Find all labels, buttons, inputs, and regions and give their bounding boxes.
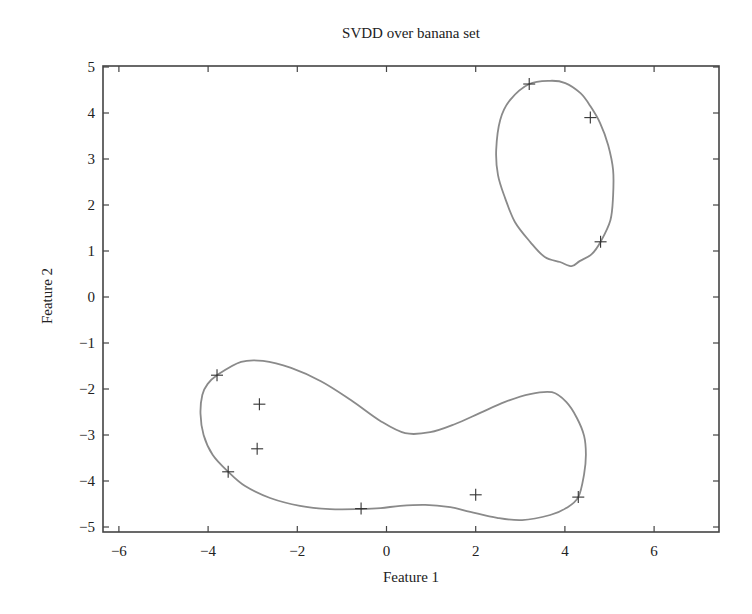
x-tick-label: −4 (200, 543, 216, 559)
plus-marker-icon (251, 443, 263, 455)
x-tick-label: 6 (650, 543, 658, 559)
y-axis: −5−4−3−2−1012345 (79, 59, 719, 535)
plot-area (103, 66, 719, 532)
x-tick-label: −6 (111, 543, 127, 559)
y-tick-label: 5 (88, 59, 96, 75)
svdd-boundaries (200, 81, 613, 520)
y-tick-label: −5 (79, 519, 95, 535)
svdd-chart: SVDD over banana set −6−4−20246 −5−4−3−2… (0, 0, 752, 614)
y-tick-label: −4 (79, 473, 95, 489)
x-axis-label: Feature 1 (383, 569, 439, 585)
data-points (211, 78, 607, 515)
plus-marker-icon (355, 503, 367, 515)
y-tick-label: −3 (79, 427, 95, 443)
y-tick-label: −1 (79, 335, 95, 351)
svdd-boundary-curve (496, 81, 613, 266)
x-tick-label: −2 (289, 543, 305, 559)
y-axis-label: Feature 2 (39, 268, 55, 324)
x-tick-label: 4 (561, 543, 569, 559)
plus-marker-icon (595, 236, 607, 248)
y-tick-label: 2 (88, 197, 96, 213)
plus-marker-icon (523, 78, 535, 90)
y-tick-label: 4 (88, 105, 96, 121)
y-tick-label: 1 (88, 243, 96, 259)
y-tick-label: 0 (88, 289, 96, 305)
x-tick-label: 2 (472, 543, 480, 559)
y-tick-label: 3 (88, 151, 96, 167)
plus-marker-icon (470, 489, 482, 501)
x-axis: −6−4−20246 (111, 66, 658, 559)
y-tick-label: −2 (79, 381, 95, 397)
svdd-boundary-curve (200, 360, 585, 520)
x-tick-label: 0 (383, 543, 391, 559)
chart-title: SVDD over banana set (342, 25, 481, 41)
plus-marker-icon (253, 398, 265, 410)
plot-border (103, 66, 719, 532)
